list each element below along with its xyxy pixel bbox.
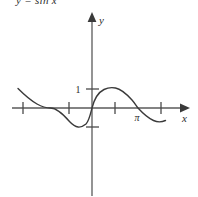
sine-function-figure: y = sin x y x 1 π (0, 0, 198, 197)
equation-caption: y = sin x (16, 0, 57, 6)
y-tick-label-one: 1 (76, 84, 81, 95)
sine-plot-svg: y x 1 π (0, 0, 198, 197)
equation-lhs: y = sin x (16, 0, 57, 6)
y-axis-arrowhead (88, 12, 97, 22)
x-tick-label-pi: π (134, 112, 140, 123)
x-axis-label: x (181, 112, 187, 124)
y-axis-label: y (98, 14, 104, 26)
